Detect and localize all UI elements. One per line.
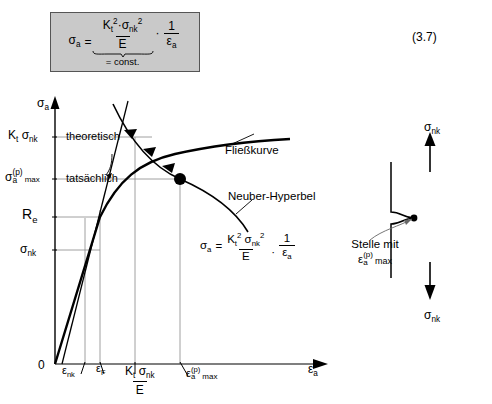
horizontal-guides: [55, 137, 180, 250]
inline-neuber-equation: σa = Kt2 σnk2 E · 1 εa: [200, 232, 297, 262]
formula-const-group: Kt2·σnk2 E = const.: [92, 18, 154, 66]
formula-factor-denominator: εa: [164, 33, 180, 51]
x-tick-label-kt-sigma-nk-over-e: Kt σnk E: [120, 364, 160, 397]
origin-label: 0: [38, 358, 45, 372]
y-tick-label-sigma-a-p-max: σ (p) a max: [5, 168, 40, 184]
x-axis-title: εa: [308, 362, 318, 378]
inline-eq-main-fraction: Kt2 σnk2 E: [224, 232, 267, 262]
intersection-point: [174, 173, 186, 185]
annotation-fliesskurve: Fließkurve: [225, 144, 279, 156]
notch-root-point: [411, 215, 418, 222]
formula-numerator: Kt2·σnk2: [100, 18, 145, 36]
neuber-leader: [236, 200, 252, 214]
y-tick-label-re: Re: [22, 206, 37, 225]
y-axis-title: σa: [37, 96, 49, 112]
specimen-callout-line1: Stelle mit: [332, 238, 418, 250]
y-tick-label-kt-sigma-nk: Kt σnk: [8, 128, 38, 144]
formula-main-fraction: Kt2·σnk2 E: [100, 18, 145, 50]
formula-factor-numerator: 1: [165, 20, 178, 33]
formula-equals: =: [85, 36, 92, 48]
annotation-theoretisch: theoretisch: [66, 130, 120, 142]
neuber-hyperbola: [113, 104, 248, 232]
callout-arrow-icon: [404, 219, 412, 225]
main-formula-box: σa = Kt2·σnk2 E = const. · 1 εa: [50, 12, 200, 72]
specimen-callout: Stelle mit ε (p) a max: [332, 238, 418, 266]
x-tick-label-eps-f: εF: [96, 362, 105, 377]
inline-eq-factor-fraction: 1 εa: [279, 233, 295, 262]
notched-specimen-diagram: [368, 128, 488, 308]
formula-factor-fraction: 1 εa: [164, 20, 180, 51]
formula-multiplier-dot: ·: [156, 27, 160, 39]
y-tick-label-sigma-nk: σnk: [20, 242, 36, 258]
formula-denominator: E: [116, 36, 130, 50]
top-load-arrow-icon: [425, 132, 436, 172]
specimen-bottom-label: σnk: [424, 308, 440, 324]
formula-lhs: σa: [69, 34, 81, 50]
main-formula: σa = Kt2·σnk2 E = const. · 1 εa: [69, 18, 182, 66]
x-tick-label-eps-a-p-max: ε (p) a max: [186, 366, 217, 381]
hyperbola-direction-arrows: [124, 129, 175, 173]
annotation-tatsaechlich: tatsächlich: [66, 172, 118, 184]
specimen-callout-symbol: ε (p) a max: [332, 251, 418, 266]
annotation-neuber-hyperbel: Neuber-Hyperbel: [228, 190, 316, 202]
y-axis: [51, 96, 60, 364]
specimen-top-label: σnk: [424, 120, 440, 136]
formula-const-label: = const.: [106, 57, 140, 67]
x-tick-label-eps-nk: εnk: [62, 364, 75, 379]
equation-number: (3.7): [412, 30, 437, 44]
bottom-load-arrow-icon: [425, 262, 436, 300]
